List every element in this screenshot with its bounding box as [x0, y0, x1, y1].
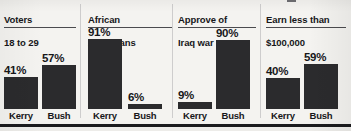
- panel-earn-less-than-100000: Earn less than $100,000 40% 59% Kerry Bu…: [266, 0, 346, 124]
- bar-value-kerry: 91%: [88, 26, 122, 38]
- title-rule: [4, 27, 76, 28]
- bar-kerry: [88, 39, 122, 109]
- bar-slot-bush: 6%: [128, 32, 162, 109]
- bar-slot-kerry: 40%: [266, 32, 300, 109]
- axis-label-kerry: Kerry: [178, 110, 212, 121]
- panel-title-line1: Approve of: [178, 14, 227, 25]
- panel-plot: 40% 59%: [266, 32, 346, 109]
- bar-slot-bush: 59%: [304, 32, 338, 109]
- axis-label-kerry: Kerry: [88, 110, 122, 121]
- axis-label-bush: Bush: [304, 110, 338, 121]
- bar-slot-kerry: 41%: [4, 32, 38, 109]
- bar-bush: [304, 64, 338, 109]
- bar-bush: [216, 40, 250, 109]
- panel-plot: 41% 57%: [4, 32, 76, 109]
- exit-poll-bar-chart: Voters 18 to 29 41% 57% Kerry Bush Afric…: [0, 0, 351, 131]
- panel-title-line1: Earn less than: [266, 14, 330, 25]
- panel-divider-2: [172, 4, 173, 118]
- bar-value-kerry: 9%: [178, 89, 212, 101]
- bar-value-bush: 57%: [42, 52, 76, 64]
- panel-title-line1: African: [88, 14, 120, 25]
- axis-label-bush: Bush: [42, 110, 76, 121]
- bar-value-bush: 59%: [304, 51, 338, 63]
- bar-slot-kerry: 9%: [178, 32, 212, 109]
- axis-label-kerry: Kerry: [266, 110, 300, 121]
- panel-divider-1: [80, 4, 81, 118]
- axis-label-kerry: Kerry: [4, 110, 38, 121]
- axis-label-bush: Bush: [128, 110, 162, 121]
- panel-voters-18-to-29: Voters 18 to 29 41% 57% Kerry Bush: [4, 0, 76, 124]
- bar-bush: [128, 104, 162, 109]
- bar-value-kerry: 41%: [4, 64, 38, 76]
- axis-label-bush: Bush: [216, 110, 250, 121]
- bar-kerry: [266, 78, 300, 109]
- bar-value-bush: 90%: [216, 27, 250, 39]
- panel-plot: 9% 90%: [178, 32, 256, 109]
- panel-african-americans: African Americans 91% 6% Kerry Bush: [88, 0, 172, 124]
- bar-slot-bush: 90%: [216, 32, 250, 109]
- panel-divider-3: [260, 4, 261, 118]
- panel-title-line1: Voters: [4, 14, 32, 25]
- bar-bush: [42, 65, 76, 109]
- bar-kerry: [4, 77, 38, 109]
- bar-value-bush: 6%: [128, 91, 162, 103]
- bar-value-kerry: 40%: [266, 65, 300, 77]
- bottom-rule: [0, 124, 351, 127]
- bar-slot-kerry: 91%: [88, 32, 122, 109]
- title-rule: [266, 27, 346, 28]
- panel-plot: 91% 6%: [88, 32, 172, 109]
- bar-kerry: [178, 102, 212, 109]
- panel-approve-of-iraq-war: Approve of Iraq war 9% 90% Kerry Bush: [178, 0, 256, 124]
- bar-slot-bush: 57%: [42, 32, 76, 109]
